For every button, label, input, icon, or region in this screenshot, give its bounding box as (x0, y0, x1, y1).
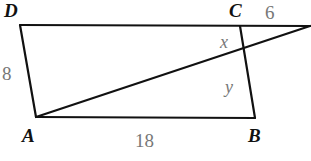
edge-D-A (20, 25, 36, 117)
measure-label-8: 8 (2, 63, 12, 84)
measure-label-6: 6 (265, 2, 275, 23)
edge-A-E (36, 26, 310, 117)
vertex-label-C: C (229, 0, 242, 21)
measure-label-18: 18 (135, 130, 154, 151)
vertex-label-D: D (3, 0, 18, 21)
edge-C-B (240, 26, 255, 118)
vertex-label-A: A (21, 125, 35, 146)
variable-label-y: y (223, 77, 233, 97)
vertex-label-B: B (247, 125, 261, 146)
edge-A-B (36, 117, 255, 118)
edge-D-E (20, 25, 310, 26)
geometry-diagram: D C A B 6 8 18 x y (0, 0, 311, 161)
variable-label-x: x (219, 32, 228, 52)
